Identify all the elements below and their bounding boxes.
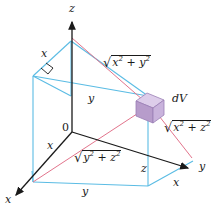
axis-label-y-right: y [199,161,205,172]
dv-label-d: d [172,92,179,105]
figure-3d-volume-element: z y x 0 x y x y z x dV √x2 + y2 √x2 + z2… [0,0,217,212]
sqrt-symbol-xz: √ [164,121,172,134]
dist-xz-exp2: 2 [206,120,210,128]
edge-label-z-right: z [141,163,147,174]
dist-yz-exp2: 2 [116,150,120,158]
edge-label-x-left: x [47,140,53,151]
box-edge-base-right [148,161,193,186]
dv-label-v: V [179,92,187,105]
box-edge-top-left-slant [33,41,71,76]
axis-label-z: z [69,3,75,14]
right-angle-marker [41,63,53,74]
edge-label-x-right: x [173,177,179,188]
dist-xz-exp1: 2 [180,120,184,128]
figure-vector-graphics [0,0,217,212]
edge-label-x-top: x [41,48,47,59]
edge-label-y-mid: y [88,93,94,104]
dist-xy-exp2: 2 [145,55,149,63]
box-edge-base-front [33,182,148,186]
sqrt-symbol-xy: √ [103,56,111,69]
axis-label-x-lower: x [5,194,11,205]
edge-label-y-bottom: y [82,186,88,197]
dist-yz-exp1: 2 [90,150,94,158]
distance-label-xy: √x2 + y2 [103,55,151,69]
origin-label: 0 [62,122,69,133]
sqrt-symbol-yz: √ [74,151,82,164]
axis-x [16,132,72,195]
distance-label-yz: √y2 + z2 [74,150,121,164]
dv-label: dV [172,92,187,105]
volume-element-dv [136,93,164,123]
dist-xy-exp1: 2 [119,55,123,63]
distance-label-xz: √x2 + z2 [164,120,211,134]
